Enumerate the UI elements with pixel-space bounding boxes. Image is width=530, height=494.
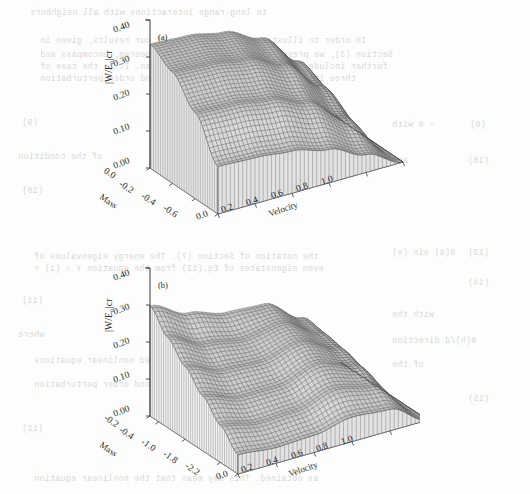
panel-b-zaxis-label: |W/E₀|cr (104, 298, 114, 332)
bleed-line: (9) (470, 120, 486, 129)
panel-b-id: (b) (158, 280, 168, 290)
bleed-line: (14) (468, 278, 489, 287)
bleed-line: (10) (468, 156, 489, 165)
panel-a-zaxis-label: |W/E₀|cr (104, 50, 114, 84)
panel-b-surface-svg (0, 248, 420, 494)
panel-a-surface-svg (0, 0, 420, 246)
bleed-line: (15) (468, 394, 489, 403)
bleed-line: (13) (468, 248, 489, 257)
panel-a-id: (a) (158, 32, 167, 42)
surface-plot-panel-b: |W/E₀|cr 0.40 0.30 0.20 0.10 0.00 (b) -0… (0, 248, 420, 494)
surface-plot-panel-a: |W/E₀|cr 0.40 0.30 0.20 0.10 0.00 (a) 0.… (0, 0, 420, 246)
scanned-page: to long-range interactions with all neig… (0, 0, 530, 494)
